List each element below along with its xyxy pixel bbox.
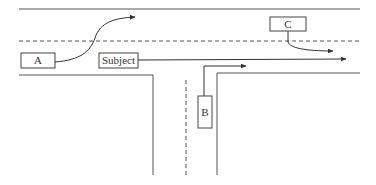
vehicle-subject-path-arrow	[138, 59, 346, 60]
vehicle-c: C	[270, 17, 306, 31]
vehicle-b-path-arrow	[204, 66, 246, 96]
road-edge-lower-right	[217, 73, 360, 175]
vehicle-b: B	[198, 96, 212, 128]
vehicle-a-label: A	[34, 54, 42, 66]
vehicle-subject-label: Subject	[102, 54, 135, 66]
vehicle-b-label: B	[201, 106, 208, 118]
vehicle-a: A	[21, 53, 55, 68]
intersection-diagram: A Subject B C	[0, 0, 376, 185]
vehicle-subject: Subject	[99, 53, 138, 68]
road-edge-lower-left	[19, 75, 153, 175]
vehicle-c-label: C	[284, 18, 291, 30]
